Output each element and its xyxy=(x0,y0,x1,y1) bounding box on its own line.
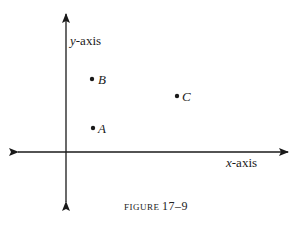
coordinate-diagram: y-axis x-axis B A C FIGURE 17–9 xyxy=(0,0,299,227)
point-b-dot xyxy=(90,77,94,81)
point-a-dot xyxy=(91,126,95,130)
point-c-dot xyxy=(175,94,179,98)
point-c-label: C xyxy=(182,89,191,104)
point-a-label: A xyxy=(97,121,106,136)
figure-caption-word: FIGURE xyxy=(124,202,160,212)
figure-caption-number: 17–9 xyxy=(162,199,188,213)
y-axis-label-rest: -axis xyxy=(76,33,101,48)
y-axis-label: y-axis xyxy=(68,33,101,48)
x-axis-label-rest: -axis xyxy=(232,155,257,170)
x-axis-label: x-axis xyxy=(225,155,257,170)
point-b-label: B xyxy=(98,72,106,87)
